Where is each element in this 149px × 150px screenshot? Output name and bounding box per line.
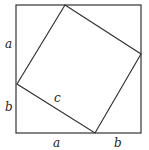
- outer-square: [16, 5, 141, 133]
- label-left-b: b: [5, 100, 13, 114]
- label-left-a: a: [5, 37, 12, 51]
- label-hypotenuse-c: c: [54, 91, 61, 105]
- label-bottom-a: a: [53, 136, 60, 150]
- inner-square: [17, 5, 141, 133]
- label-bottom-b: b: [114, 136, 122, 150]
- pythagorean-diagram: a b a b c: [0, 0, 149, 150]
